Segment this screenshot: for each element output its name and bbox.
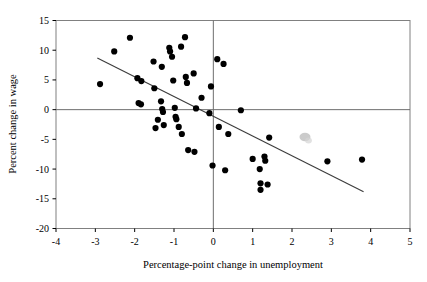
y-tick-label: -20 (36, 223, 49, 234)
data-point (214, 56, 220, 62)
x-tick-label: -3 (91, 236, 99, 247)
data-point (359, 156, 365, 162)
data-point (225, 131, 231, 137)
data-point (324, 158, 330, 164)
data-point (138, 101, 144, 107)
data-point (167, 48, 173, 54)
data-point (185, 147, 191, 153)
data-point (173, 116, 179, 122)
data-point (191, 149, 197, 155)
y-tick-label: 5 (44, 74, 49, 85)
data-point (160, 109, 166, 115)
smudge-blob-secondary (305, 137, 312, 143)
y-tick-label: 15 (39, 15, 49, 26)
data-point (138, 78, 144, 84)
data-point (155, 117, 161, 123)
data-point (170, 77, 176, 83)
data-point (209, 162, 215, 168)
data-point (176, 124, 182, 130)
y-tick-label: -10 (36, 164, 49, 175)
y-tick-label: 10 (39, 45, 49, 56)
data-point (161, 122, 167, 128)
data-point (179, 131, 185, 137)
data-point (184, 80, 190, 86)
data-point (206, 110, 212, 116)
data-point (220, 61, 226, 67)
data-point (97, 81, 103, 87)
data-point (266, 134, 272, 140)
data-point (257, 180, 263, 186)
x-tick-label: -1 (170, 236, 178, 247)
data-point (152, 125, 158, 131)
x-tick-label: 1 (250, 236, 255, 247)
data-point (159, 64, 165, 70)
data-point (183, 74, 189, 80)
data-point (216, 124, 222, 130)
data-point (182, 34, 188, 40)
data-point (191, 70, 197, 76)
data-point (198, 95, 204, 101)
x-axis-tick-labels: -4-3-2-1012345 (52, 236, 413, 247)
data-point (265, 181, 271, 187)
y-axis-ticks (53, 21, 57, 229)
data-point (151, 85, 157, 91)
data-point (127, 35, 133, 41)
data-point (178, 44, 184, 50)
x-tick-label: -4 (52, 236, 60, 247)
data-point (208, 83, 214, 89)
data-point (172, 105, 178, 111)
x-tick-label: -2 (130, 236, 138, 247)
plot-frame (56, 21, 410, 229)
data-point (250, 156, 256, 162)
scatter-chart: -4-3-2-1012345 151050-5-10-15-20 Percent… (0, 0, 427, 282)
data-point (150, 58, 156, 64)
data-point (238, 107, 244, 113)
data-point (257, 166, 263, 172)
data-point (169, 54, 175, 60)
x-tick-label: 5 (408, 236, 413, 247)
data-point (158, 98, 164, 104)
x-tick-label: 4 (368, 236, 373, 247)
x-tick-label: 0 (211, 236, 216, 247)
data-point (257, 187, 263, 193)
y-tick-label: -15 (36, 193, 49, 204)
x-axis-ticks (56, 229, 410, 233)
y-tick-label: 0 (44, 104, 49, 115)
x-tick-label: 3 (329, 236, 334, 247)
data-point (193, 105, 199, 111)
x-tick-label: 2 (290, 236, 295, 247)
data-point (111, 48, 117, 54)
data-point (262, 158, 268, 164)
y-axis-title: Percent change in wage (7, 74, 18, 174)
y-tick-label: -5 (41, 134, 49, 145)
x-axis-title: Percentage-point change in unemployment (143, 259, 323, 270)
y-axis-tick-labels: 151050-5-10-15-20 (36, 15, 49, 234)
data-point (222, 167, 228, 173)
chart-canvas: -4-3-2-1012345 151050-5-10-15-20 Percent… (0, 0, 427, 282)
